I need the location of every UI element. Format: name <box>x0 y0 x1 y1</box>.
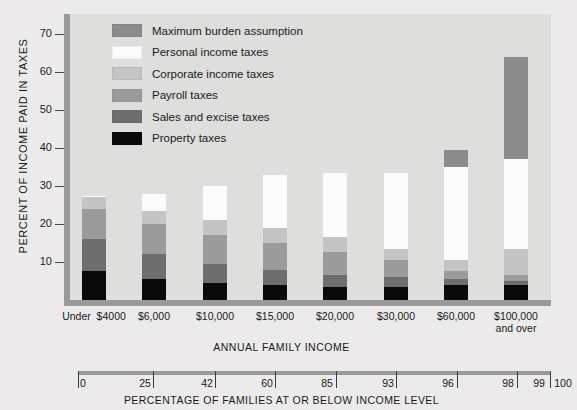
y-axis-tick-label: 10 <box>28 256 52 267</box>
y-axis-tick-label: 50 <box>28 104 52 115</box>
percentage-scale-tick <box>457 371 458 388</box>
bar-segment <box>263 270 287 285</box>
legend-swatch-icon <box>112 24 142 37</box>
percentage-scale-rule <box>78 371 550 375</box>
y-axis-tick-label: 70 <box>28 28 52 39</box>
legend-swatch-icon <box>112 110 142 123</box>
bar-segment <box>444 271 468 279</box>
y-axis-tick <box>55 262 64 263</box>
x-axis-tick-label-line: and over <box>476 322 556 334</box>
legend-item-label: Corporate income taxes <box>152 68 274 80</box>
percentage-scale-label: 100 <box>548 377 577 389</box>
percentage-scale-tick <box>517 371 518 388</box>
legend-item: Corporate income taxes <box>112 63 303 85</box>
y-axis-tick <box>55 34 64 35</box>
percentage-scale-label: 96 <box>433 377 463 389</box>
x-axis-line <box>64 300 551 306</box>
y-axis-tick <box>55 110 64 111</box>
bar-segment <box>323 287 347 300</box>
legend-item-label: Payroll taxes <box>152 89 218 101</box>
percentage-scale-tick <box>78 371 79 388</box>
bar-segment <box>384 173 408 249</box>
bar-segment <box>323 252 347 275</box>
legend-item: Maximum burden assumption <box>112 20 303 42</box>
percentage-scale-tick <box>550 371 551 388</box>
percentage-scale-tick <box>396 371 397 388</box>
percentage-scale-title: PERCENTAGE OF FAMILIES AT OR BELOW INCOM… <box>0 394 563 406</box>
stacked-bar <box>263 175 287 300</box>
x-axis-tick-label-line: Under <box>62 310 96 322</box>
stacked-bar <box>323 173 347 300</box>
stacked-bar <box>444 150 468 300</box>
legend-item-label: Property taxes <box>152 132 226 144</box>
bar-segment <box>82 209 106 239</box>
x-axis-title: ANNUAL FAMILY INCOME <box>0 341 563 353</box>
bar-segment <box>263 228 287 243</box>
bar-segment <box>82 271 106 300</box>
bar-segment <box>504 159 528 248</box>
bar-segment <box>142 279 166 300</box>
legend-item: Property taxes <box>112 128 303 150</box>
bar-segment <box>444 150 468 167</box>
bar-segment <box>323 275 347 286</box>
bar-segment <box>203 235 227 264</box>
x-axis-tick-label: $100,000and over <box>476 310 556 334</box>
bar-segment <box>203 264 227 283</box>
percentage-scale-label: 60 <box>252 377 282 389</box>
stacked-bar <box>504 57 528 300</box>
y-axis-tick <box>55 186 64 187</box>
stacked-bar <box>142 194 166 300</box>
bar-segment <box>142 224 166 254</box>
stacked-bar <box>384 173 408 300</box>
bar-segment <box>504 285 528 300</box>
percentage-scale-tick <box>275 371 276 388</box>
bar-segment <box>444 285 468 300</box>
bar-segment <box>203 283 227 300</box>
legend-item: Personal income taxes <box>112 42 303 64</box>
x-axis-tick-label-line: $100,000 <box>476 310 556 322</box>
legend-item-label: Sales and excise taxes <box>152 111 270 123</box>
y-axis-tick <box>55 72 64 73</box>
legend-swatch-icon <box>112 46 142 59</box>
bar-segment <box>384 260 408 277</box>
percentage-scale-label: 25 <box>130 377 160 389</box>
bar-segment <box>504 249 528 276</box>
y-axis-tick-label: 60 <box>28 66 52 77</box>
bar-segment <box>323 173 347 238</box>
percentage-scale-label: 85 <box>312 377 342 389</box>
bar-segment <box>82 239 106 271</box>
y-axis-tick <box>55 224 64 225</box>
y-axis-tick <box>55 148 64 149</box>
percentage-scale-tick <box>215 371 216 388</box>
legend-swatch-icon <box>112 67 142 80</box>
y-axis-tick-label: 20 <box>28 218 52 229</box>
stacked-bar <box>82 196 106 301</box>
bar-segment <box>384 277 408 287</box>
bar-segment <box>203 186 227 220</box>
bar-segment <box>263 285 287 300</box>
legend-swatch-icon <box>112 89 142 102</box>
legend: Maximum burden assumptionPersonal income… <box>112 20 303 149</box>
bar-segment <box>323 237 347 252</box>
bar-segment <box>142 211 166 224</box>
bar-segment <box>504 57 528 160</box>
stacked-bar <box>203 186 227 300</box>
bar-segment <box>384 287 408 300</box>
legend-swatch-icon <box>112 132 142 145</box>
percentage-scale-label: 93 <box>373 377 403 389</box>
bar-segment <box>263 175 287 228</box>
bar-segment <box>444 167 468 260</box>
bar-segment <box>384 249 408 260</box>
y-axis-tick-label: 30 <box>28 180 52 191</box>
bar-segment <box>82 197 106 208</box>
legend-item: Payroll taxes <box>112 85 303 107</box>
legend-item-label: Personal income taxes <box>152 46 268 58</box>
percentage-scale-tick <box>336 371 337 388</box>
bar-segment <box>203 220 227 235</box>
percentage-scale-label: 0 <box>68 377 98 389</box>
percentage-scale-label: 98 <box>493 377 523 389</box>
bar-segment <box>444 260 468 271</box>
legend-item: Sales and excise taxes <box>112 106 303 128</box>
y-axis-tick-label: 40 <box>28 142 52 153</box>
